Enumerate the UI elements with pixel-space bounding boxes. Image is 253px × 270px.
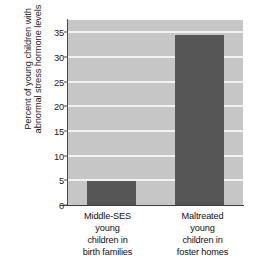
x-category-label-line: birth families [60,246,155,258]
x-category-label-line: foster homes [155,246,250,258]
y-tick-label: 10 [40,150,64,161]
plot-area [68,20,243,205]
gridline [68,31,243,33]
x-category-label-line: children in [155,234,250,246]
x-category-label-line: Maltreated [155,210,250,222]
x-category-label-line: young [155,222,250,234]
y-tick-label: 25 [40,76,64,87]
bar [87,181,136,205]
x-category-label-line: Middle-SES [60,210,155,222]
y-tick-mark [64,155,68,156]
bar [175,35,224,205]
x-category-label: Middle-SESyoungchildren inbirth families [60,210,155,268]
y-tick-label: 20 [40,101,64,112]
x-axis-line [60,205,244,206]
y-tick-label: 35 [40,27,64,38]
x-category-label-line: children in [60,234,155,246]
y-tick-label: 5 [40,175,64,186]
y-tick-mark [64,81,68,82]
x-category-label-line: young [60,222,155,234]
x-axis-category-labels: Middle-SESyoungchildren inbirth families… [60,210,250,268]
y-tick-mark [64,32,68,33]
y-tick-mark [64,106,68,107]
y-tick-mark [64,131,68,132]
y-tick-label: 15 [40,126,64,137]
x-category-label: Maltreatedyoungchildren infoster homes [155,210,250,268]
y-tick-mark [64,57,68,58]
bar-chart: Percent of young children with abnormal … [0,0,253,270]
y-tick-label: 30 [40,52,64,63]
y-axis-title-line-1: Percent of young children with [23,8,33,130]
y-tick-mark [64,180,68,181]
y-tick-mark [64,205,68,206]
